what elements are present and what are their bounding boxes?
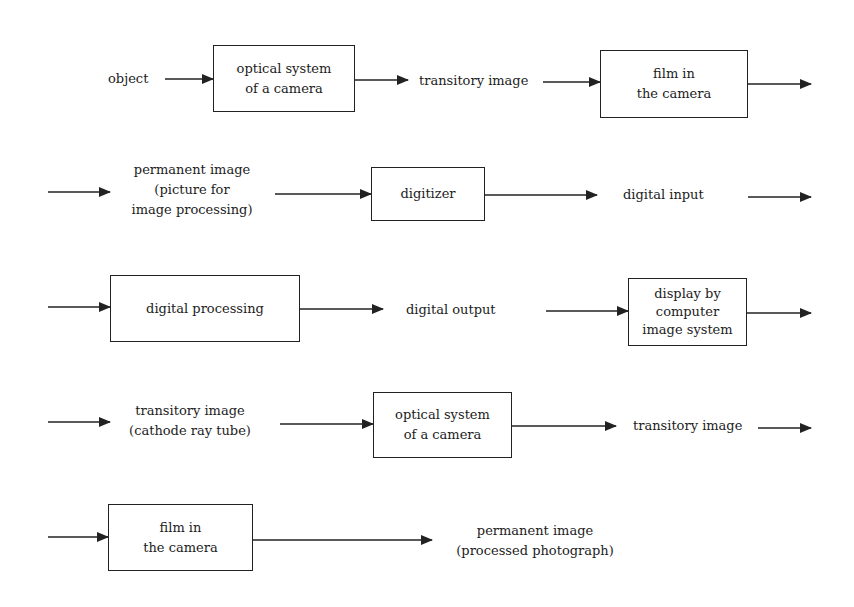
- digital-processing-text: digital processing: [146, 299, 264, 319]
- permanent2-line2: (processed photograph): [445, 541, 625, 561]
- permanent2-line1: permanent image: [445, 521, 625, 541]
- transitory2-line1: transitory image: [120, 401, 260, 421]
- node-transitory-image-1: transitory image: [419, 71, 528, 91]
- node-digital-processing: digital processing: [110, 275, 300, 342]
- display-line3: image system: [642, 321, 732, 339]
- optical2-line2: of a camera: [395, 425, 490, 445]
- digital-output-text: digital output: [406, 302, 496, 317]
- node-film-2: film in the camera: [108, 504, 253, 571]
- node-transitory-image-2: transitory image (cathode ray tube): [120, 401, 260, 441]
- transitory3-text: transitory image: [633, 418, 742, 433]
- node-transitory-image-3: transitory image: [633, 416, 742, 436]
- display-line2: computer: [642, 303, 732, 321]
- optical1-line2: of a camera: [237, 79, 332, 99]
- node-digital-output: digital output: [406, 300, 496, 320]
- node-optical-system-1: optical system of a camera: [213, 45, 355, 112]
- permanent1-line3: image processing): [127, 200, 257, 220]
- film2-line2: the camera: [143, 538, 217, 558]
- digital-input-text: digital input: [623, 187, 704, 202]
- node-digital-input: digital input: [623, 185, 704, 205]
- node-permanent-image-2: permanent image (processed photograph): [445, 521, 625, 561]
- transitory1-text: transitory image: [419, 73, 528, 88]
- node-digitizer: digitizer: [371, 167, 485, 221]
- optical1-line1: optical system: [237, 59, 332, 79]
- permanent1-line2: (picture for: [127, 180, 257, 200]
- digitizer-text: digitizer: [400, 184, 455, 204]
- permanent1-line1: permanent image: [127, 160, 257, 180]
- node-object-text: object: [108, 71, 148, 86]
- film1-line2: the camera: [637, 84, 711, 104]
- node-display: display by computer image system: [628, 278, 747, 346]
- display-line1: display by: [642, 285, 732, 303]
- node-permanent-image-1: permanent image (picture for image proce…: [127, 160, 257, 220]
- node-object: object: [108, 69, 148, 89]
- film1-line1: film in: [637, 64, 711, 84]
- node-film-1: film in the camera: [600, 50, 748, 118]
- film2-line1: film in: [143, 518, 217, 538]
- node-optical-system-2: optical system of a camera: [373, 392, 512, 458]
- optical2-line1: optical system: [395, 405, 490, 425]
- transitory2-line2: (cathode ray tube): [120, 421, 260, 441]
